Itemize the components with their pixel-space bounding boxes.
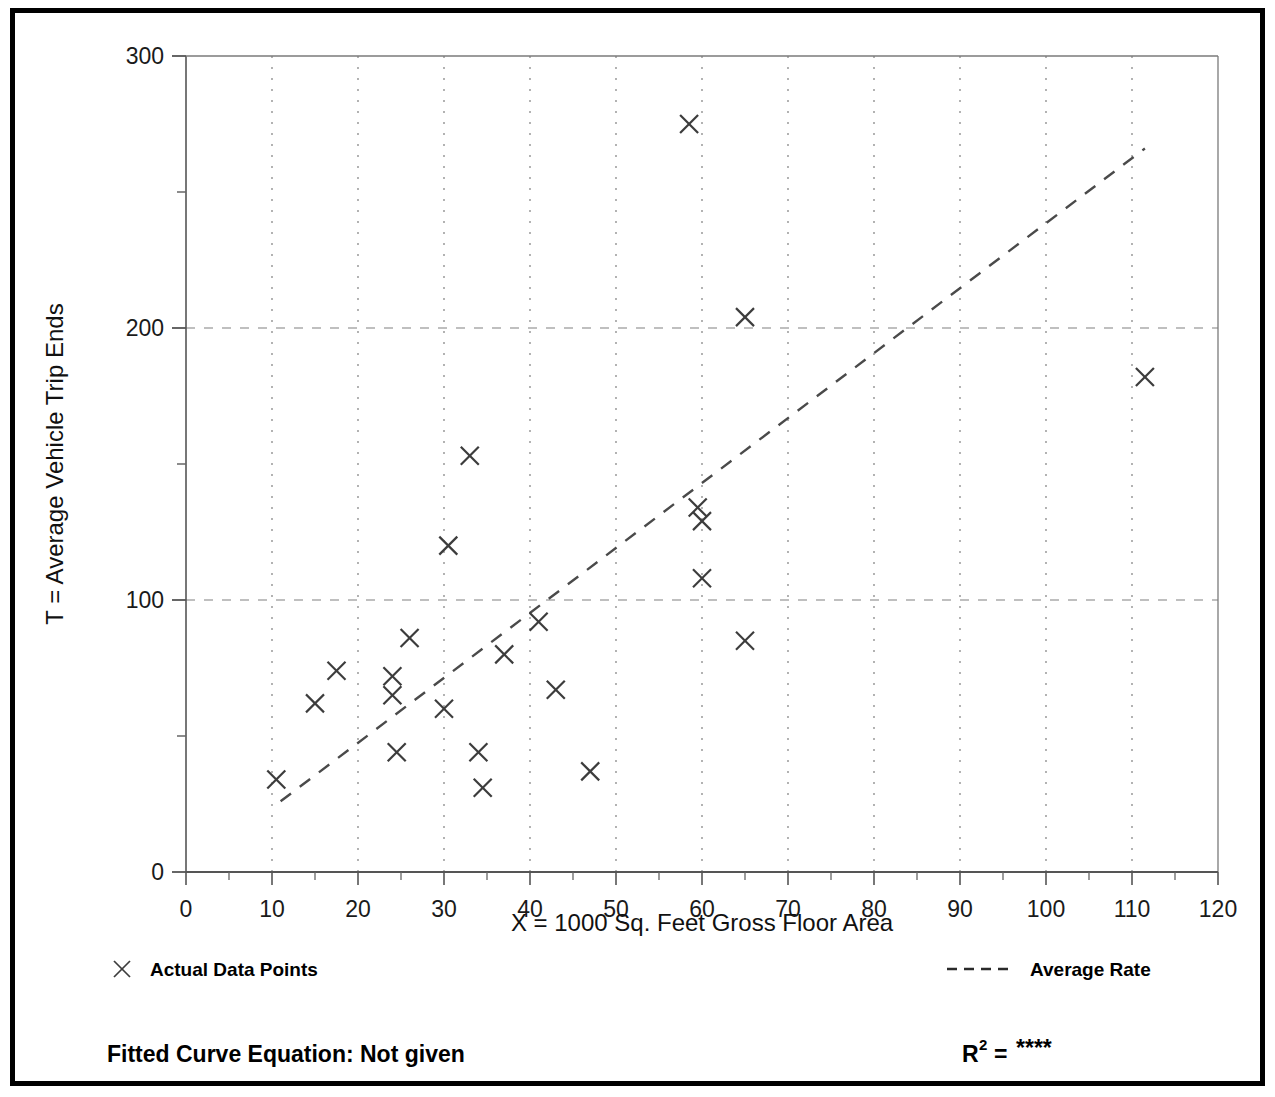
legend-average-rate: Average Rate — [947, 959, 1151, 980]
x-tick-label: 30 — [431, 896, 457, 922]
data-point-marker — [689, 499, 707, 517]
y-axis-ticks — [172, 56, 186, 872]
data-point-marker — [388, 743, 406, 761]
vertical-gridlines — [272, 56, 1132, 872]
x-tick-label: 90 — [947, 896, 973, 922]
average-rate-trendline — [281, 148, 1145, 801]
y-tick-label: 100 — [126, 587, 164, 613]
x-tick-label: 20 — [345, 896, 371, 922]
legend-actual-data-points-label: Actual Data Points — [150, 959, 318, 980]
r-squared-value: **** — [1016, 1035, 1052, 1061]
data-point-marker — [693, 512, 711, 530]
data-point-marker — [736, 632, 754, 650]
data-point-marker — [435, 700, 453, 718]
x-axis-title: X = 1000 Sq. Feet Gross Floor Area — [511, 909, 894, 936]
legend-x-marker-icon — [114, 961, 130, 977]
r-squared-base: R — [962, 1041, 979, 1067]
x-tick-label: 110 — [1114, 896, 1151, 922]
data-point-marker — [306, 694, 324, 712]
data-point-marker — [1136, 368, 1154, 386]
data-point-marker — [581, 762, 599, 780]
y-tick-label: 200 — [126, 315, 164, 341]
data-point-marker — [461, 447, 479, 465]
r-squared-exponent: 2 — [979, 1036, 987, 1053]
y-tick-label: 0 — [151, 859, 164, 885]
legend-actual-data-points: Actual Data Points — [114, 959, 318, 980]
r-squared-equals: = — [994, 1041, 1007, 1067]
data-point-marker — [439, 537, 457, 555]
data-point-marker — [383, 686, 401, 704]
data-point-marker — [328, 662, 346, 680]
legend-average-rate-label: Average Rate — [1030, 959, 1151, 980]
data-point-marker — [547, 681, 565, 699]
chart-page: 0102030405060708090100110120 0100200300 … — [0, 0, 1275, 1097]
y-axis-tick-labels: 0100200300 — [126, 43, 164, 885]
r-squared-block: R 2 = **** — [962, 1035, 1052, 1067]
data-point-marker — [401, 629, 419, 647]
data-point-marker — [736, 308, 754, 326]
x-tick-label: 0 — [180, 896, 193, 922]
data-point-marker — [469, 743, 487, 761]
data-point-marker — [267, 771, 285, 789]
data-point-marker — [495, 645, 513, 663]
x-tick-label: 120 — [1199, 896, 1237, 922]
fitted-curve-equation-label: Fitted Curve Equation: Not given — [107, 1041, 465, 1067]
data-point-marker — [383, 667, 401, 685]
data-point-marker — [474, 779, 492, 797]
data-point-marker — [680, 115, 698, 133]
x-tick-label: 10 — [259, 896, 285, 922]
y-tick-label: 300 — [126, 43, 164, 69]
data-point-marker — [530, 613, 548, 631]
y-axis-title: T = Average Vehicle Trip Ends — [41, 303, 68, 624]
x-axis-ticks — [186, 872, 1218, 885]
scatter-chart: 0102030405060708090100110120 0100200300 … — [0, 0, 1275, 1097]
data-point-markers — [267, 115, 1154, 797]
x-tick-label: 100 — [1027, 896, 1065, 922]
